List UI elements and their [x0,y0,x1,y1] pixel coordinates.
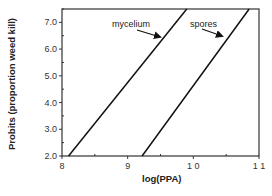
probit-chart: 2.03.04.05.06.07.0 891 01 1 mycelium spo… [0,0,272,196]
x-tick-label: 9 [125,161,130,171]
series-line-spores [142,9,249,156]
arrow-mycelium [137,30,160,37]
series-lines [69,9,250,156]
y-tick-label: 6.0 [44,44,57,54]
y-tick-label: 4.0 [44,98,57,108]
y-axis: 2.03.04.05.06.07.0 [44,9,64,161]
y-tick-label: 3.0 [44,124,57,134]
annotation-mycelium: mycelium [112,19,150,29]
y-tick-label: 7.0 [44,17,57,27]
series-line-mycelium [69,9,187,156]
x-tick-label: 1 1 [253,161,266,171]
y-tick-label: 5.0 [44,71,57,81]
x-axis-label: log(PPA) [142,173,181,184]
plot-frame [62,9,259,156]
x-tick-label: 8 [59,161,64,171]
y-tick-label: 2.0 [44,151,57,161]
x-tick-label: 1 0 [187,161,200,171]
arrow-spores [202,29,222,36]
annotation-spores: spores [190,19,218,29]
y-axis-label: Probits (proportion weed kill) [6,18,17,150]
